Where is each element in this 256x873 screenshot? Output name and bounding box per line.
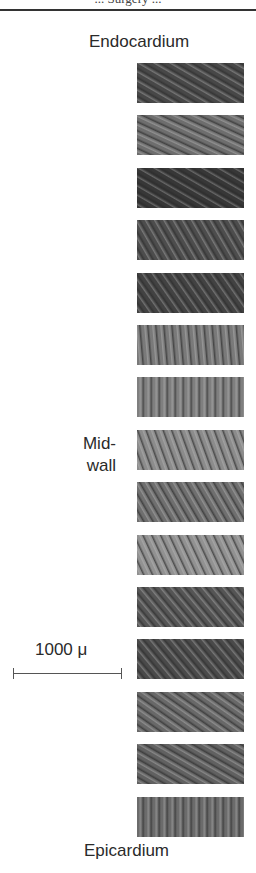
histology-panel (137, 797, 244, 837)
histology-panel (137, 220, 244, 260)
histology-panel (137, 482, 244, 522)
histology-panel (137, 168, 244, 208)
midwall-label-line1: Mid- (60, 433, 116, 455)
histology-panel (137, 692, 244, 732)
histology-panel (137, 273, 244, 313)
histology-panel (137, 63, 244, 103)
histology-panel (137, 587, 244, 627)
histology-panel (137, 115, 244, 155)
epicardium-label: Epicardium (84, 841, 169, 861)
top-rule (0, 9, 256, 11)
midwall-label-line2: wall (60, 455, 116, 477)
scale-bar-right-tick (121, 668, 122, 679)
midwall-label: Mid- wall (60, 433, 116, 477)
scale-bar-left-tick (13, 668, 14, 679)
histology-panel (137, 430, 244, 470)
cut-off-caption: ... Surgery ... (0, 0, 256, 7)
histology-panel (137, 744, 244, 784)
scale-bar-line (14, 673, 121, 674)
histology-panel (137, 535, 244, 575)
scale-bar-label: 1000 μ (35, 640, 87, 660)
endocardium-label: Endocardium (89, 32, 189, 52)
histology-panel (137, 377, 244, 417)
histology-panel (137, 639, 244, 679)
histology-panel (137, 325, 244, 365)
